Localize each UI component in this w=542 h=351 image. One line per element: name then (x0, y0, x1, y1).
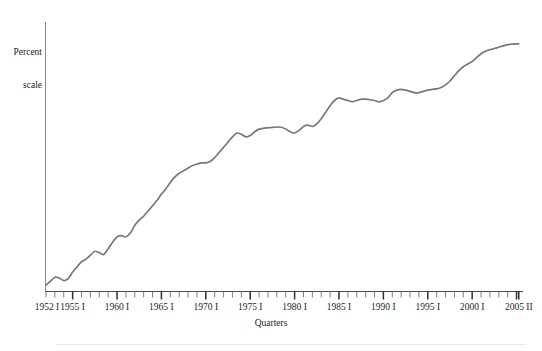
x-axis-tick-label: 1955 I (60, 302, 85, 312)
x-axis-tick-label: 1980 I (282, 302, 307, 312)
y-axis-label-line-2: scale (6, 80, 42, 91)
x-axis-tick-marks (46, 291, 519, 300)
x-axis-title: Quarters (0, 318, 542, 329)
x-axis-tick-label: 1970 I (194, 302, 219, 312)
line-chart-plot (0, 0, 542, 351)
chart-figure: Percent scale 1952 I1955 I1960 I1965 I19… (0, 0, 542, 351)
x-axis-tick-label: 1995 I (416, 302, 441, 312)
x-axis-tick-label: 1985 I (327, 302, 352, 312)
x-axis-tick-label: 1952 I (35, 302, 60, 312)
y-axis-label-line-1: Percent (6, 47, 42, 58)
plot-axes (45, 22, 523, 292)
x-axis-tick-label: 2005 II (505, 302, 533, 312)
x-axis-tick-label: 2000 I (460, 302, 485, 312)
footer-divider (56, 344, 526, 345)
y-axis-label: Percent scale (6, 25, 42, 113)
x-axis-tick-label: 1975 I (238, 302, 263, 312)
x-axis-tick-label: 1960 I (105, 302, 130, 312)
data-series-line (46, 44, 519, 285)
x-axis-tick-label: 1965 I (149, 302, 174, 312)
x-axis-tick-label: 1990 I (371, 302, 396, 312)
